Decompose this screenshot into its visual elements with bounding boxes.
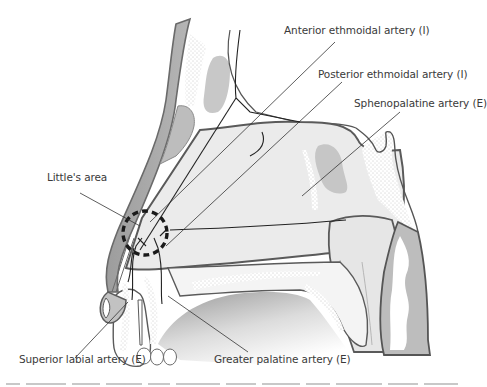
anterior-ethmoidal-artery bbox=[235, 30, 300, 122]
label-posterior-ethmoidal-artery: Posterior ethmoidal artery (I) bbox=[318, 68, 467, 80]
label-littles-area: Little's area bbox=[47, 171, 107, 183]
cropped-caption bbox=[6, 380, 476, 387]
tooth-2 bbox=[151, 349, 164, 365]
label-sphenopalatine-artery: Sphenopalatine artery (E) bbox=[354, 97, 487, 109]
label-greater-palatine-artery: Greater palatine artery (E) bbox=[214, 353, 351, 365]
frontal-sinus bbox=[204, 56, 230, 113]
label-superior-labial-artery: Superior labial artery (E) bbox=[19, 353, 146, 365]
tooth-3 bbox=[164, 349, 177, 365]
frontal-sinus-bone bbox=[185, 34, 206, 108]
label-anterior-ethmoidal-artery: Anterior ethmoidal artery (I) bbox=[284, 24, 429, 36]
